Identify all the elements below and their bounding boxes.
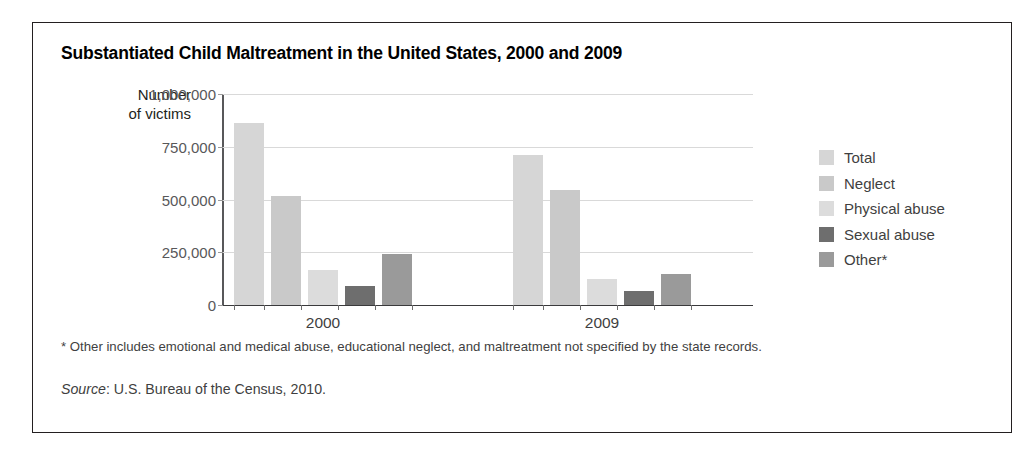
source-text: : U.S. Bureau of the Census, 2010.	[106, 381, 326, 397]
gridline	[223, 147, 753, 148]
gridline	[223, 252, 753, 253]
legend-label: Other*	[844, 251, 887, 268]
x-axis-tick	[338, 305, 339, 310]
legend-label: Neglect	[844, 175, 895, 192]
legend-item-neglect: Neglect	[819, 171, 945, 197]
legend-swatch-icon	[819, 252, 834, 267]
y-axis-tick-label: 250,000	[162, 244, 216, 261]
y-axis-tick-label: 750,000	[162, 138, 216, 155]
gridline	[223, 200, 753, 201]
x-axis-tick	[301, 305, 302, 310]
figure-card: Substantiated Child Maltreatment in the …	[32, 22, 1012, 433]
y-axis-tick	[218, 147, 223, 148]
x-axis-tick	[580, 305, 581, 310]
x-axis-tick	[691, 305, 692, 310]
legend-item-physical-abuse: Physical abuse	[819, 196, 945, 222]
gridline	[223, 94, 753, 95]
x-axis-tick	[234, 305, 235, 310]
plot-area: 0250,000500,000750,0001,000,00020002009	[223, 94, 753, 305]
chart-legend: TotalNeglectPhysical abuseSexual abuseOt…	[819, 145, 945, 273]
source-label: Source	[61, 381, 106, 397]
bar-2000-neglect	[271, 196, 301, 305]
legend-label: Sexual abuse	[844, 226, 935, 243]
y-axis-tick	[218, 252, 223, 253]
bar-2009-sexual-abuse	[624, 291, 654, 305]
legend-swatch-icon	[819, 176, 834, 191]
bar-2000-total	[234, 123, 264, 306]
x-axis-tick	[543, 305, 544, 310]
y-axis-tick-label: 1,000,000	[149, 86, 216, 103]
legend-item-other-: Other*	[819, 247, 945, 273]
x-axis-tick	[617, 305, 618, 310]
bar-2000-other-	[382, 254, 412, 305]
y-axis-tick-label: 500,000	[162, 191, 216, 208]
x-axis-tick	[375, 305, 376, 310]
legend-item-total: Total	[819, 145, 945, 171]
legend-swatch-icon	[819, 150, 834, 165]
y-axis-tick	[218, 94, 223, 95]
footnote: * Other includes emotional and medical a…	[61, 339, 762, 354]
y-axis-tick	[218, 200, 223, 201]
bar-2000-physical-abuse	[308, 270, 338, 305]
legend-label: Total	[844, 149, 876, 166]
x-axis-group-label-2000: 2000	[306, 314, 340, 332]
x-axis-tick	[264, 305, 265, 310]
bar-2009-physical-abuse	[587, 279, 617, 305]
x-axis-tick	[513, 305, 514, 310]
y-axis-tick	[218, 305, 223, 306]
legend-label: Physical abuse	[844, 200, 945, 217]
x-axis-tick	[654, 305, 655, 310]
y-axis-tick-label: 0	[208, 297, 216, 314]
x-axis-group-label-2009: 2009	[585, 314, 619, 332]
x-axis-tick	[412, 305, 413, 310]
bar-2009-neglect	[550, 190, 580, 305]
bar-2000-sexual-abuse	[345, 286, 375, 305]
y-axis-title-line2: of victims	[71, 104, 191, 123]
page-title: Substantiated Child Maltreatment in the …	[61, 43, 622, 64]
legend-swatch-icon	[819, 201, 834, 216]
source-line: Source: U.S. Bureau of the Census, 2010.	[61, 381, 326, 397]
bar-2009-total	[513, 155, 543, 305]
legend-swatch-icon	[819, 227, 834, 242]
bar-2009-other-	[661, 274, 691, 305]
legend-item-sexual-abuse: Sexual abuse	[819, 222, 945, 248]
